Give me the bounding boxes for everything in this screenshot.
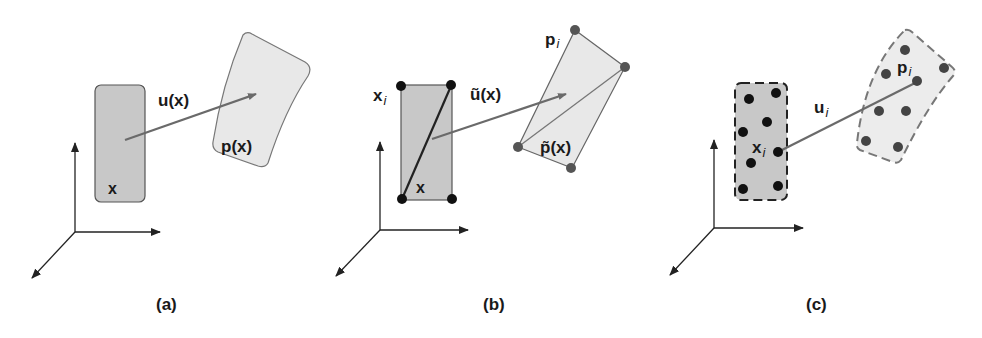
panel-c: xi ui pi (c) [670,30,955,314]
svg-text:(a): (a) [156,295,177,314]
panel-b: xi ũ(x) x pi p̃(x) (b) [336,25,630,314]
caption-b: (b) [483,295,505,314]
caption-a: (a) [156,295,177,314]
svg-text:xi: xi [373,86,387,108]
label-p-x: p(x) [221,137,252,156]
svg-text:ũ(x): ũ(x) [470,85,501,104]
deformation-diagram: u(x) x p(x) (a) xi ũ(x) x pi [0,0,982,338]
label-u-tilde-x: ũ(x) [470,85,501,104]
label-u-x: u(x) [158,91,189,110]
svg-text:ui: ui [814,98,829,120]
label-p-i: p [897,58,907,77]
label-u-i: u [814,98,824,117]
label-p-i: p [545,30,555,49]
svg-text:p(x): p(x) [221,137,252,156]
caption-c: (c) [806,295,827,314]
source-body [95,85,145,202]
svg-text:x: x [416,179,425,196]
label-x-i: x [752,138,762,157]
label-x: x [416,179,425,196]
svg-text:pi: pi [545,30,560,51]
label-x: x [108,180,117,197]
deformed-element [518,30,625,168]
svg-text:(c): (c) [806,295,827,314]
panel-a: u(x) x p(x) (a) [32,33,310,314]
svg-text:p̃(x): p̃(x) [540,138,571,157]
svg-text:x: x [108,180,117,197]
svg-text:u(x): u(x) [158,91,189,110]
label-p-tilde-x: p̃(x) [540,138,571,157]
label-x-i: x [373,86,383,105]
svg-text:(b): (b) [483,295,505,314]
